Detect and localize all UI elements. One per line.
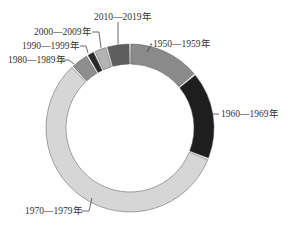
donut-chart: 1950—1959年1960—1969年1970—1979年1980—1989年… (0, 0, 288, 228)
slice-label: 1950—1959年 (153, 38, 211, 49)
slice-label: 1990—1999年 (22, 40, 80, 51)
leader-line (92, 32, 101, 48)
slice-label: 2010—2019年 (94, 11, 152, 22)
slice-label: 2000—2009年 (34, 26, 92, 37)
leader-line (80, 46, 88, 53)
slice-1960s (180, 75, 214, 158)
donut-slices (46, 44, 214, 212)
slice-2010s (107, 44, 129, 66)
slice-label: 1960—1969年 (221, 108, 279, 119)
slice-1950s (131, 44, 194, 87)
slice-label: 1970—1979年 (25, 205, 83, 216)
slice-label: 1980—1989年 (8, 54, 66, 65)
